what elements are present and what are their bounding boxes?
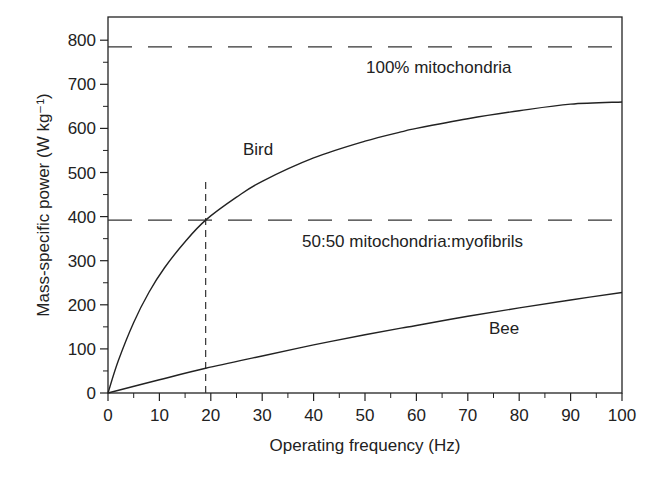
x-tick-label: 40 [304, 406, 323, 425]
reference-lines [108, 47, 622, 393]
plot-frame [108, 17, 622, 393]
x-tick-label: 0 [103, 406, 112, 425]
x-tick-label: 100 [608, 406, 636, 425]
y-tick-label: 500 [68, 164, 96, 183]
y-tick-label: 100 [68, 340, 96, 359]
y-tick-label: 300 [68, 252, 96, 271]
x-tick-label: 80 [510, 406, 529, 425]
series-label-bee: Bee [489, 319, 519, 338]
y-tick-label: 400 [68, 208, 96, 227]
y-tick-label: 800 [68, 31, 96, 50]
y-axis-label: Mass-specific power (W kg⁻¹) [34, 93, 53, 316]
y-tick-label: 200 [68, 296, 96, 315]
series-label-bird: Bird [243, 140, 273, 159]
chart: 0100200300400500600700800 01020304050607… [0, 0, 657, 481]
ref-label-100-mitochondria: 100% mitochondria [366, 58, 512, 77]
x-tick-label: 70 [458, 406, 477, 425]
x-tick-label: 20 [201, 406, 220, 425]
x-axis-label: Operating frequency (Hz) [270, 436, 461, 455]
series-line-bee [108, 292, 622, 393]
x-tick-label: 10 [150, 406, 169, 425]
ref-label-50-50: 50:50 mitochondria:myofibrils [302, 232, 523, 251]
x-tick-label: 90 [561, 406, 580, 425]
y-tick-label: 600 [68, 119, 96, 138]
x-axis: 0102030405060708090100 [103, 393, 636, 425]
y-tick-label: 0 [87, 384, 96, 403]
x-tick-label: 60 [407, 406, 426, 425]
y-tick-label: 700 [68, 75, 96, 94]
x-tick-label: 50 [356, 406, 375, 425]
x-tick-label: 30 [253, 406, 272, 425]
y-axis: 0100200300400500600700800 [68, 31, 108, 403]
